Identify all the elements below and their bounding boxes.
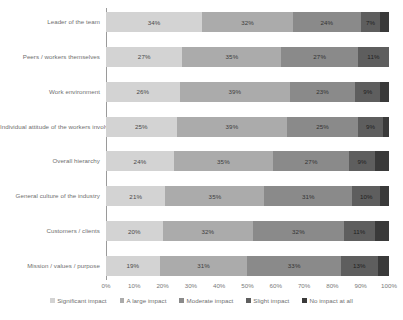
- bar-segment: 24%: [293, 12, 361, 32]
- bar-segment: 32%: [253, 221, 344, 241]
- stacked-bar: 34%32%24%7%: [106, 12, 389, 32]
- bar-segment: 21%: [106, 186, 165, 206]
- stacked-bar: 20%32%32%11%: [106, 221, 389, 241]
- bar-segment: 9%: [355, 82, 380, 102]
- category-label: Customers / clients: [0, 227, 106, 235]
- bar-segment: 7%: [361, 12, 381, 32]
- bar-segment: 32%: [163, 221, 254, 241]
- legend-swatch-icon: [50, 298, 55, 303]
- legend-item[interactable]: No impact at all: [302, 297, 352, 304]
- bar-segment: 19%: [106, 256, 160, 276]
- bar-segment: 27%: [281, 47, 357, 67]
- bar-segment: 24%: [106, 151, 174, 171]
- legend-item[interactable]: A large impact: [120, 297, 167, 304]
- legend-swatch-icon: [179, 298, 184, 303]
- stacked-bar: 25%39%25%9%: [106, 117, 389, 137]
- legend-item[interactable]: Slight impact: [246, 297, 289, 304]
- x-axis-tick-label: 90%: [354, 282, 366, 289]
- legend-label: A large impact: [127, 297, 167, 304]
- legend-swatch-icon: [120, 298, 125, 303]
- x-axis-tick-label: 60%: [270, 282, 282, 289]
- bar-segment: 25%: [106, 117, 177, 137]
- stacked-bar: 21%35%31%10%: [106, 186, 389, 206]
- legend-label: No impact at all: [309, 297, 352, 304]
- bar-segment: 26%: [106, 82, 180, 102]
- category-label: Individual attitude of the workers invol…: [0, 123, 106, 131]
- bar-segment: [375, 221, 389, 241]
- bar-row: Overall hierarchy24%35%27%9%: [0, 147, 403, 175]
- stacked-bar: 19%31%33%13%: [106, 256, 389, 276]
- plot-area: Leader of the team34%32%24%7%Peers / wor…: [0, 8, 403, 280]
- bar-segment: 23%: [290, 82, 355, 102]
- bar-row: Leader of the team34%32%24%7%: [0, 8, 403, 36]
- x-axis-tick-label: 70%: [298, 282, 310, 289]
- bar-segment: 31%: [264, 186, 352, 206]
- bar-segment: 35%: [165, 186, 264, 206]
- legend-item[interactable]: Significant impact: [50, 297, 106, 304]
- x-axis-tick-label: 10%: [128, 282, 140, 289]
- stacked-bar: 24%35%27%9%: [106, 151, 389, 171]
- category-label: Leader of the team: [0, 18, 106, 26]
- category-label: Mission / values / purpose: [0, 262, 106, 270]
- bar-segment: 27%: [106, 47, 182, 67]
- bar-segment: 35%: [174, 151, 273, 171]
- bar-segment: 9%: [349, 151, 374, 171]
- category-label: Work environment: [0, 88, 106, 96]
- category-label: Peers / workers themselves: [0, 53, 106, 61]
- bar-segment: [375, 151, 389, 171]
- x-axis-tick-label: 20%: [156, 282, 168, 289]
- bar-segment: 35%: [182, 47, 281, 67]
- bar-row: Peers / workers themselves27%35%27%11%: [0, 43, 403, 71]
- bar-segment: [380, 186, 388, 206]
- x-axis-tick-label: 30%: [185, 282, 197, 289]
- x-axis-tick-label: 80%: [326, 282, 338, 289]
- bar-segment: [378, 256, 389, 276]
- legend-swatch-icon: [302, 298, 307, 303]
- bar-segment: [380, 12, 388, 32]
- bar-row: Work environment26%39%23%9%: [0, 78, 403, 106]
- legend-swatch-icon: [246, 298, 251, 303]
- bar-segment: 31%: [160, 256, 248, 276]
- bar-segment: 13%: [341, 256, 378, 276]
- x-axis-tick-label: 100%: [381, 282, 397, 289]
- legend-item[interactable]: Moderate impact: [179, 297, 233, 304]
- legend-label: Slight impact: [253, 297, 289, 304]
- bar-row: Mission / values / purpose19%31%33%13%: [0, 252, 403, 280]
- x-axis-tick-label: 50%: [241, 282, 253, 289]
- bar-segment: 32%: [202, 12, 293, 32]
- chart-legend: Significant impactA large impactModerate…: [0, 297, 403, 304]
- category-label: General culture of the industry: [0, 192, 106, 200]
- bar-segment: 11%: [344, 221, 375, 241]
- bar-segment: 25%: [287, 117, 358, 137]
- bar-segment: 10%: [352, 186, 380, 206]
- stacked-bar: 26%39%23%9%: [106, 82, 389, 102]
- x-axis-tick-label: 40%: [213, 282, 225, 289]
- bar-row: Customers / clients20%32%32%11%: [0, 217, 403, 245]
- bar-segment: 27%: [273, 151, 349, 171]
- bar-segment: 11%: [358, 47, 389, 67]
- bar-segment: 9%: [358, 117, 383, 137]
- bar-segment: 34%: [106, 12, 202, 32]
- stacked-bar: 27%35%27%11%: [106, 47, 389, 67]
- bar-segment: 39%: [180, 82, 290, 102]
- bar-segment: 33%: [247, 256, 340, 276]
- legend-label: Significant impact: [57, 297, 106, 304]
- x-axis: 0%10%20%30%40%50%60%70%80%90%100%: [106, 282, 389, 294]
- bar-segment: [383, 117, 389, 137]
- bar-rows: Leader of the team34%32%24%7%Peers / wor…: [0, 8, 403, 280]
- bar-segment: 39%: [177, 117, 287, 137]
- bar-segment: 20%: [106, 221, 163, 241]
- bar-row: Individual attitude of the workers invol…: [0, 113, 403, 141]
- bar-segment: [380, 82, 388, 102]
- legend-label: Moderate impact: [186, 297, 233, 304]
- bar-row: General culture of the industry21%35%31%…: [0, 182, 403, 210]
- category-label: Overall hierarchy: [0, 157, 106, 165]
- x-axis-tick-label: 0%: [102, 282, 111, 289]
- stacked-bar-chart: Leader of the team34%32%24%7%Peers / wor…: [0, 0, 403, 320]
